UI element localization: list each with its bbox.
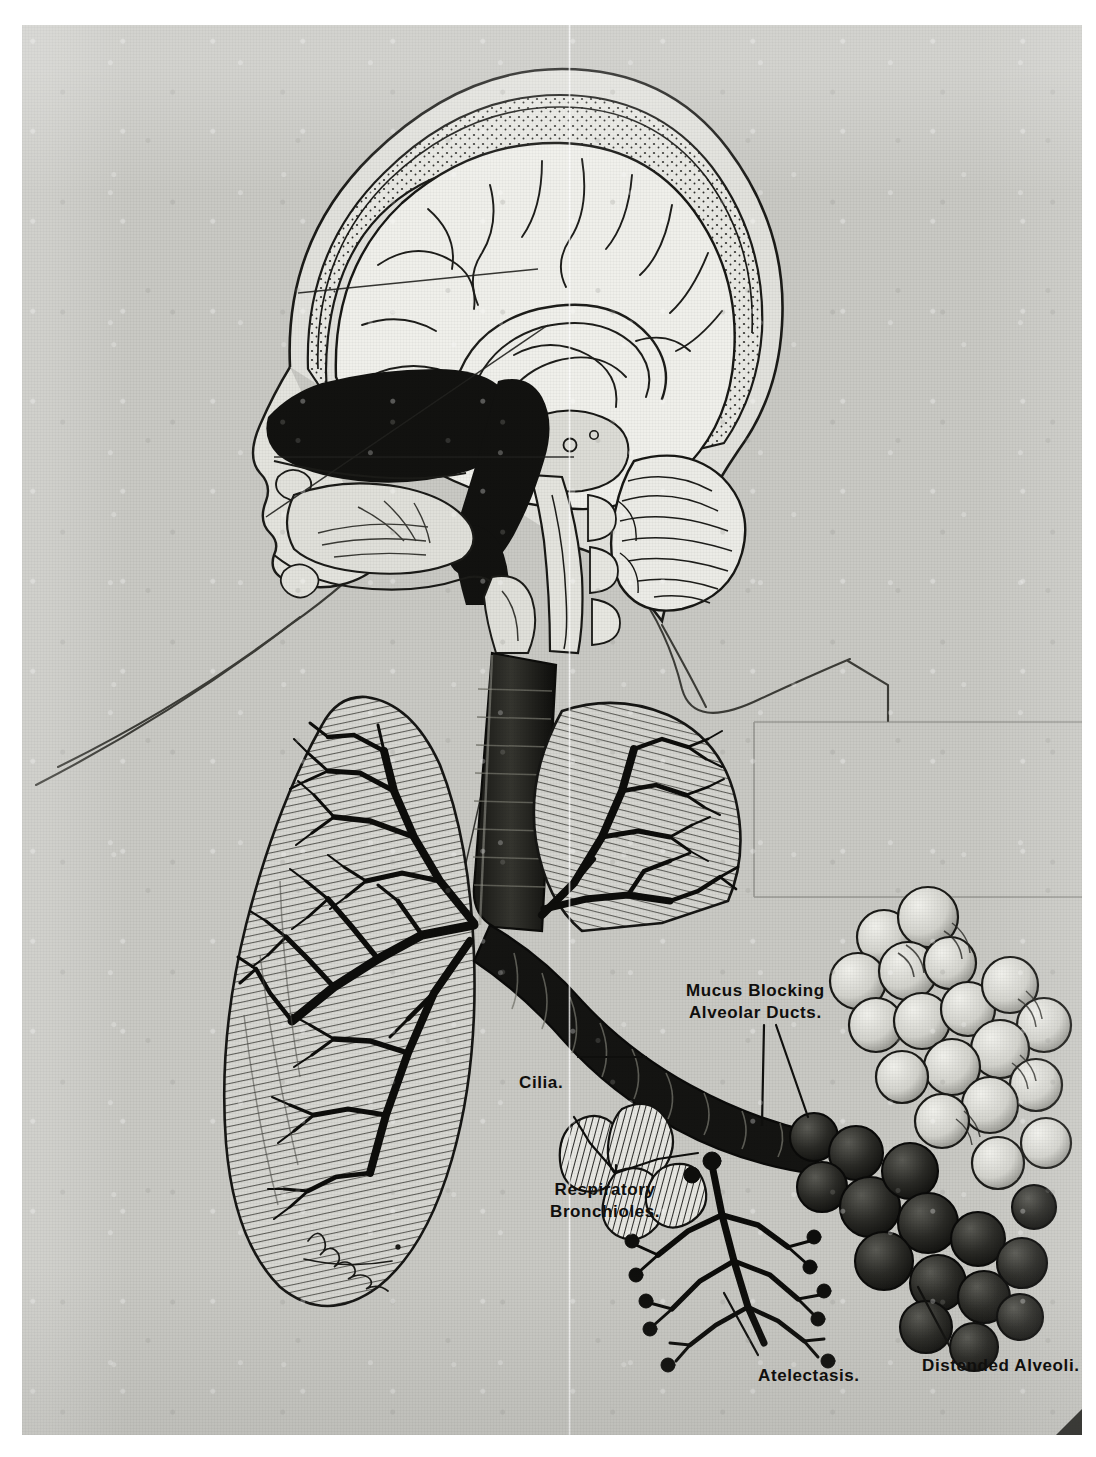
anatomy-artwork (22, 25, 1082, 1435)
corner-mark (1056, 1409, 1082, 1435)
leader-mucus-left (762, 1025, 764, 1125)
pencil-construction-rectangle (754, 722, 1082, 897)
head-sagittal-section (253, 69, 783, 653)
label-respiratory-bronchioles: Respiratory Bronchioles. (550, 1179, 660, 1223)
paper-sheet: Mucus Blocking Alveolar Ducts. Cilia. Re… (22, 25, 1082, 1435)
label-atelectasis: Atelectasis. (758, 1365, 860, 1387)
label-cilia: Cilia. (519, 1072, 563, 1094)
illustration-plate: Mucus Blocking Alveolar Ducts. Cilia. Re… (0, 0, 1096, 1457)
right-lung (534, 703, 741, 931)
label-respiratory-line-1: Respiratory (550, 1179, 660, 1201)
left-lung (224, 697, 474, 1306)
leader-mucus-right (776, 1025, 808, 1117)
label-mucus-line-1: Mucus Blocking (686, 980, 825, 1002)
label-mucus-blocking-alveolar-ducts: Mucus Blocking Alveolar Ducts. (686, 980, 825, 1024)
label-mucus-line-2: Alveolar Ducts. (686, 1002, 825, 1024)
label-distended-alveoli: Distended Alveoli. (922, 1355, 1080, 1377)
label-respiratory-line-2: Bronchioles. (550, 1201, 660, 1223)
